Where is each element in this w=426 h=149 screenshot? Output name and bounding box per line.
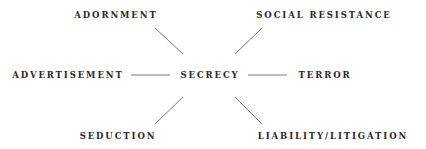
node-advertisement: ADVERTISEMENT (12, 70, 123, 80)
edge-adornment (155, 28, 183, 54)
node-adornment: ADORNMENT (74, 10, 157, 20)
node-liability-litigation: LIABILITY/LITIGATION (258, 131, 408, 141)
node-social-resistance: SOCIAL RESISTANCE (256, 10, 391, 20)
edge-seduction (155, 97, 183, 124)
node-terror: TERROR (299, 70, 352, 80)
edge-liability-litigation (235, 97, 262, 124)
center-node-secrecy: SECRECY (180, 70, 239, 80)
edge-social-resistance (235, 28, 262, 54)
secrecy-concept-diagram: SECRECY ADORNMENT SOCIAL RESISTANCE ADVE… (0, 0, 426, 149)
node-seduction: SEDUCTION (80, 131, 157, 141)
